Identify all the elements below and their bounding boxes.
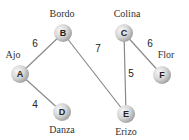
node-name-label: Ajo <box>6 49 21 60</box>
node-colina: CColina <box>114 8 141 42</box>
node-letter: B <box>60 28 67 38</box>
node-letter: E <box>123 109 129 119</box>
node-name-label: Colina <box>114 8 141 19</box>
node-bordo: BBordo <box>50 8 75 42</box>
edge-weight-label: 7 <box>95 43 101 54</box>
edge-weight-label: 6 <box>147 38 153 49</box>
node-letter: D <box>59 107 66 117</box>
node-name-label: Erizo <box>115 126 137 137</box>
node-flor: FFlor <box>153 49 175 84</box>
node-name-label: Bordo <box>50 8 75 19</box>
edge-c-e <box>124 33 126 114</box>
node-ajo: AAjo <box>6 49 30 83</box>
weighted-graph-diagram: 67564 AAjoBBordoCColinaDDanzaEErizoFFlor <box>0 0 189 140</box>
node-letter: C <box>121 28 128 38</box>
node-letter: F <box>159 70 165 80</box>
node-danza: DDanza <box>49 103 75 135</box>
node-name-label: Danza <box>49 124 75 135</box>
nodes-layer: AAjoBBordoCColinaDDanzaEErizoFFlor <box>6 8 176 137</box>
edge-weight-label: 4 <box>32 99 38 110</box>
node-erizo: EErizo <box>115 105 137 137</box>
edge-weight-label: 5 <box>128 68 134 79</box>
node-letter: A <box>17 69 24 79</box>
node-name-label: Flor <box>158 49 175 60</box>
edge-weight-label: 6 <box>32 38 38 49</box>
edges-layer: 67564 <box>20 33 162 114</box>
